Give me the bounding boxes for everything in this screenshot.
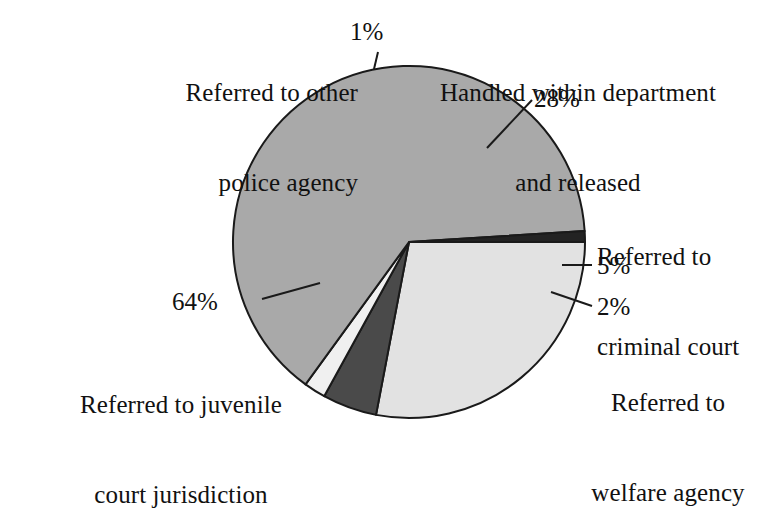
slice-value-referred-to-other-police-agency: 1%: [350, 18, 406, 46]
leader-line-police-agency: [374, 52, 378, 69]
slice-label-line-1: Referred to juvenile: [16, 390, 346, 420]
slice-value-referred-to-juvenile-court: 64%: [172, 288, 258, 316]
slice-label-referred-to-welfare-agency: Referred to welfare agency: [552, 328, 784, 512]
slice-label-line-2: police agency: [118, 168, 358, 198]
slice-label-line-2: welfare agency: [552, 478, 784, 508]
slice-label-line-2: court jurisdiction: [16, 480, 346, 510]
slice-value-handled-within-department: 28%: [534, 85, 614, 113]
slice-value-referred-to-welfare-agency: 2%: [597, 293, 677, 321]
slice-label-line-1: Referred to other: [118, 78, 358, 108]
slice-label-referred-to-juvenile-court: Referred to juvenile court jurisdiction: [16, 330, 346, 512]
slice-label-referred-to-other-police-agency: Referred to other police agency: [118, 18, 358, 258]
slice-value-referred-to-criminal-court: 5%: [597, 252, 677, 280]
slice-label-line-1: Referred to: [552, 388, 784, 418]
